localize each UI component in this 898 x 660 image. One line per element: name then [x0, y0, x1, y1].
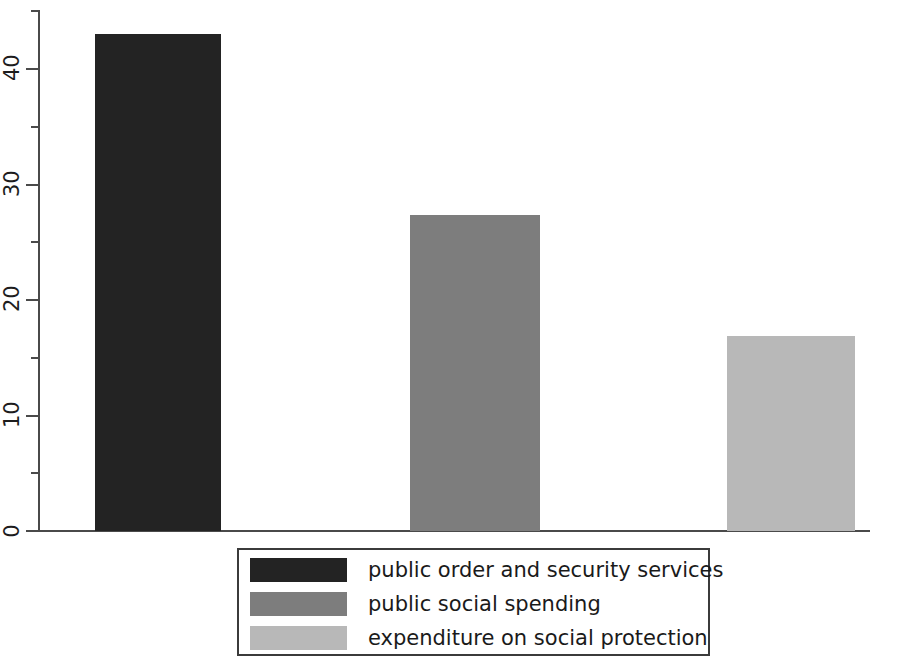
legend-item: public order and security services: [250, 556, 723, 584]
bars-layer: [0, 0, 898, 531]
legend-label: expenditure on social protection: [368, 626, 708, 650]
bar: [727, 336, 855, 531]
bar: [95, 34, 221, 531]
legend-item: public social spending: [250, 590, 601, 618]
legend-swatch-public-order-and-security-services: [250, 558, 347, 582]
legend-label: public social spending: [368, 592, 601, 616]
legend-swatch-expenditure-on-social-protection: [250, 626, 347, 650]
legend-label: public order and security services: [368, 558, 723, 582]
legend: public order and security services publi…: [237, 548, 710, 656]
legend-item: expenditure on social protection: [250, 624, 708, 652]
bar-chart: 010203040 public order and security serv…: [0, 0, 898, 660]
bar: [410, 215, 540, 531]
legend-swatch-public-social-spending: [250, 592, 347, 616]
